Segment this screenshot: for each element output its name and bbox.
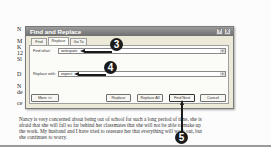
more-button[interactable]: More >> xyxy=(31,94,59,102)
chevron-down-icon[interactable]: ▼ xyxy=(220,72,225,76)
doc-fragment: de xyxy=(17,89,23,95)
doc-fragment: D xyxy=(17,71,21,77)
help-button[interactable]: ? xyxy=(216,28,223,35)
chevron-down-icon[interactable]: ▼ xyxy=(220,49,225,53)
doc-fragment: N xyxy=(17,26,21,32)
replace-all-button[interactable]: Replace All xyxy=(137,94,163,102)
callout-arrow-line xyxy=(181,104,183,132)
dialog-titlebar[interactable]: Find and Replace ? X xyxy=(26,27,233,36)
callout-arrow-line xyxy=(84,51,112,53)
paragraph-line: she continues to worry. xyxy=(19,134,67,140)
replace-with-label: Replace with: xyxy=(33,72,56,76)
tab-replace[interactable]: Replace xyxy=(48,37,69,45)
step-4-callout: 4 xyxy=(104,61,117,74)
tab-find[interactable]: Find xyxy=(31,38,47,45)
replace-with-value: expect xyxy=(61,72,72,77)
doc-fragment: ce xyxy=(17,100,22,106)
tab-go-to[interactable]: Go To xyxy=(70,38,87,45)
arrow-left-icon xyxy=(74,72,79,76)
arrow-up-icon xyxy=(180,100,184,105)
callout-arrow-line xyxy=(78,74,106,76)
dialog-title: Find and Replace xyxy=(30,28,81,35)
find-replace-dialog: Find and Replace ? X Find Replace Go To … xyxy=(25,26,234,109)
find-what-label: Find what: xyxy=(33,49,51,53)
replace-button[interactable]: Replace xyxy=(106,94,131,102)
arrow-left-icon xyxy=(80,49,85,53)
close-button[interactable]: X xyxy=(224,28,231,35)
step-3-callout: 3 xyxy=(110,38,123,51)
doc-fragment: Sl xyxy=(17,56,22,62)
step-5-callout: 5 xyxy=(175,131,188,144)
find-what-value: anticipate xyxy=(61,49,77,54)
page-divider xyxy=(0,145,271,147)
cancel-button[interactable]: Cancel xyxy=(200,94,226,102)
